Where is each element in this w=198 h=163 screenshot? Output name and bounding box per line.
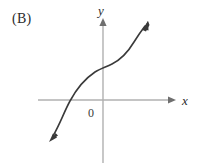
origin-label: 0 (88, 106, 94, 120)
curve-arrowhead-upper-right-wing (143, 21, 149, 31)
figure-panel: (B) y x 0 (0, 0, 198, 163)
cubic-curve (53, 26, 145, 136)
y-axis-label: y (96, 3, 104, 18)
x-axis-arrowhead (168, 96, 176, 103)
coordinate-graph: y x 0 (0, 0, 198, 163)
x-axis-label: x (181, 93, 188, 108)
y-axis-arrowhead (99, 18, 106, 26)
